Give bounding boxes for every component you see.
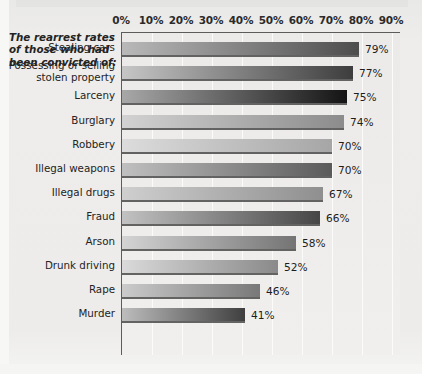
bar (122, 187, 323, 200)
x-tick-50: 50% (259, 14, 284, 26)
bar (122, 284, 260, 297)
bar (122, 163, 332, 176)
chart-figure: 0%10%20%30%40%50%60%70%80%90% 79%77%75%7… (0, 0, 422, 374)
page-bottom-margin (0, 364, 422, 374)
category-label: Illegal drugs (3, 187, 115, 199)
x-tick-20: 20% (169, 14, 194, 26)
category-label: Fraud (3, 211, 115, 223)
bar-value-label: 79% (365, 43, 389, 55)
bar-shadow (122, 224, 320, 226)
bar (122, 139, 332, 152)
category-label: Possessing or selling stolen property (3, 60, 115, 83)
category-label: Illegal weapons (3, 163, 115, 175)
x-tick-70: 70% (319, 14, 344, 26)
gridline-90 (392, 33, 393, 355)
bar (122, 236, 296, 249)
bar-shadow (122, 249, 296, 251)
bar (122, 90, 347, 103)
bar-value-label: 52% (284, 261, 308, 273)
bar-shadow (122, 103, 347, 105)
bar (122, 42, 359, 55)
bar (122, 115, 344, 128)
bar-shadow (122, 176, 332, 178)
bar-value-label: 41% (251, 309, 275, 321)
category-label: Arson (3, 236, 115, 248)
bar (122, 66, 353, 79)
bar (122, 308, 245, 321)
category-label: Stealing cars (3, 42, 115, 54)
x-axis-tick-labels: 0%10%20%30%40%50%60%70%80%90% (121, 14, 400, 29)
bar-value-label: 66% (326, 212, 350, 224)
x-tick-60: 60% (289, 14, 314, 26)
x-tick-0: 0% (112, 14, 129, 26)
bar (122, 260, 278, 273)
bar-value-label: 70% (338, 164, 362, 176)
bar-shadow (122, 273, 278, 275)
bar (122, 211, 320, 224)
category-label-column: The rearrest rates of those who had been… (9, 32, 119, 355)
bar-value-label: 58% (302, 237, 326, 249)
gridline-80 (362, 33, 363, 355)
category-label: Drunk driving (3, 260, 115, 272)
category-label: Murder (3, 308, 115, 320)
bar-shadow (122, 152, 332, 154)
bar-value-label: 74% (350, 116, 374, 128)
bar-value-label: 70% (338, 140, 362, 152)
x-tick-90: 90% (379, 14, 404, 26)
bar-value-label: 46% (266, 285, 290, 297)
plot-area: 79%77%75%74%70%70%67%66%58%52%46%41% (121, 32, 400, 355)
bar-value-label: 77% (359, 67, 383, 79)
bar-value-label: 75% (353, 91, 377, 103)
bar-shadow (122, 55, 359, 57)
category-label: Larceny (3, 90, 115, 102)
bar-shadow (122, 321, 245, 323)
x-tick-40: 40% (229, 14, 254, 26)
x-tick-10: 10% (139, 14, 164, 26)
bar-shadow (122, 79, 353, 81)
bar-shadow (122, 297, 260, 299)
bar-shadow (122, 128, 344, 130)
category-label: Robbery (3, 139, 115, 151)
category-label: Burglary (3, 115, 115, 127)
bar-value-label: 67% (329, 188, 353, 200)
bar-shadow (122, 200, 323, 202)
category-label: Rape (3, 284, 115, 296)
clipped-top-element (16, 0, 408, 7)
x-tick-80: 80% (349, 14, 374, 26)
x-tick-30: 30% (199, 14, 224, 26)
